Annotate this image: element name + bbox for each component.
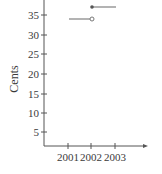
step-series (69, 5, 116, 21)
y-tick-label: 20 (28, 68, 40, 80)
y-tick-label: 5 (34, 126, 40, 138)
y-tick-label: 10 (28, 107, 40, 119)
y-tick-label: 30 (28, 29, 40, 41)
y-tick-label: 25 (28, 48, 40, 60)
y-axis-title: Cents (7, 65, 21, 93)
x-tick-label: 2003 (104, 151, 127, 163)
step-chart: 35 30 25 20 15 10 5 Cents 2001 2002 2003 (0, 0, 162, 174)
y-tick-labels: 35 30 25 20 15 10 5 (28, 9, 40, 138)
open-circle-icon (90, 17, 94, 21)
x-tick-label: 2001 (57, 151, 79, 163)
x-tick-label: 2002 (80, 151, 102, 163)
filled-dot-icon (90, 5, 94, 9)
y-tick-label: 15 (28, 88, 40, 100)
y-tick-label: 35 (28, 9, 40, 21)
x-tick-labels: 2001 2002 2003 (57, 151, 127, 163)
x-axis-arrow-icon (143, 144, 148, 148)
